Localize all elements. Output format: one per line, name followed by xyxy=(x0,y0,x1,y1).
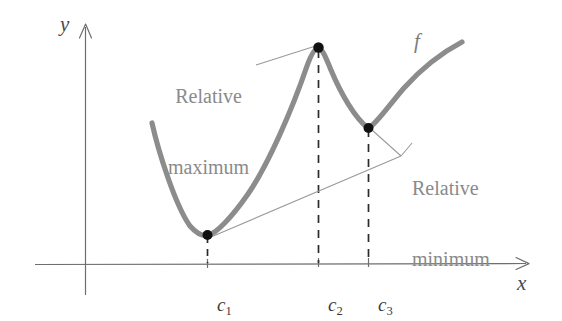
x-axis-label: x xyxy=(517,271,526,296)
annotation-relative-minimum-line2: minimum xyxy=(412,248,490,272)
annotation-relative-minimum: Relative minimum xyxy=(412,130,490,319)
function-label-f: f xyxy=(414,29,420,54)
figure-canvas: Relative maximum Relative minimum y x f … xyxy=(0,0,562,321)
x-tick-label-c2: c2 xyxy=(309,272,343,321)
annotation-relative-minimum-line1: Relative xyxy=(412,177,490,201)
x-tick-label-c2-subscript: 2 xyxy=(336,304,342,318)
annotation-relative-maximum: Relative maximum xyxy=(168,38,249,227)
point-dot-c1 xyxy=(203,230,213,240)
annotation-relative-maximum-line2: maximum xyxy=(168,156,249,180)
point-dot-c3 xyxy=(364,123,374,133)
leader-line-relative-maximum xyxy=(256,47,314,66)
x-tick-label-c1-subscript: 1 xyxy=(225,304,231,318)
x-tick-label-c3-subscript: 3 xyxy=(386,304,392,318)
x-tick-label-c3: c3 xyxy=(359,272,393,321)
leader-line-relative-minimum-to-c3 xyxy=(372,130,401,156)
y-axis-label: y xyxy=(60,12,69,37)
annotation-relative-maximum-line1: Relative xyxy=(168,85,249,109)
leader-line-relative-minimum-stem xyxy=(401,143,412,156)
point-dot-c2 xyxy=(313,42,323,52)
axis-ticks-group xyxy=(208,258,369,268)
x-tick-label-c1: c1 xyxy=(198,272,232,321)
